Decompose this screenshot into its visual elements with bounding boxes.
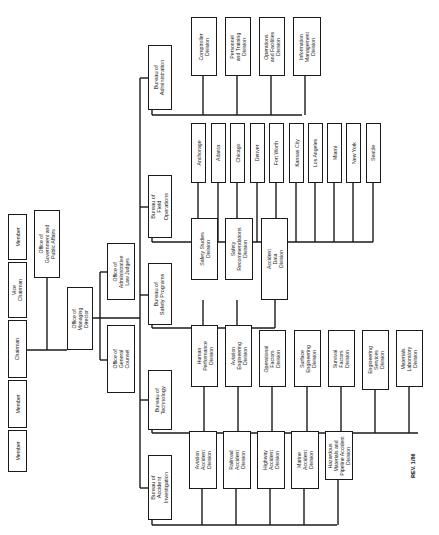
- chairman-box: Chairman: [8, 320, 27, 378]
- technology-division-box: Human Performance Division: [191, 325, 218, 387]
- connector-lines: [0, 0, 439, 535]
- field-office-box: Anchorage: [191, 123, 206, 183]
- safety-division-box: Accident Data Division: [261, 218, 288, 300]
- division-label: Fort Worth: [274, 141, 280, 165]
- admin-division-box: Comptroller Division: [191, 17, 217, 76]
- accident-division-box: Marine Accident Division: [291, 431, 319, 489]
- vice-chairman-box: Vice Chairman: [8, 262, 27, 318]
- division-label: Denver: [255, 145, 261, 162]
- managing-director-box: Office of Managing Director: [67, 287, 93, 350]
- division-label: Hazardous Materials and Pipeline Acciden…: [327, 436, 351, 476]
- division-label: New York: [351, 142, 357, 164]
- admin-division-box: Operations and Facilities Division: [259, 17, 285, 76]
- field-office-box: New York: [346, 123, 361, 183]
- accident-division-box: Highway Accident Division: [257, 431, 285, 489]
- field-office-box: Denver: [250, 123, 265, 183]
- division-label: Personnel and Training Division: [229, 32, 247, 61]
- bureau-label: Bureau of Accident Investigation: [150, 472, 169, 503]
- division-label: Accident Data Division: [266, 249, 284, 269]
- division-label: Materials Laboratory Division: [401, 346, 419, 371]
- bureau-label: Bureau of Safety Programs: [154, 273, 167, 315]
- division-label: Information Management Division: [298, 31, 316, 61]
- division-label: Safety Studies Division: [199, 232, 211, 265]
- field-office-box: Miami: [327, 123, 342, 183]
- division-label: Anchorage: [196, 140, 202, 165]
- technology-division-box: Surface Engineering Division: [294, 330, 321, 387]
- division-label: Marine Accident Division: [296, 450, 314, 470]
- board-member-label: Member: [15, 441, 21, 460]
- division-label: Chicago: [235, 143, 241, 162]
- technology-division-box: Survival Factors Division: [328, 330, 355, 387]
- bureau-technology-box: Bureau of Technology: [148, 370, 172, 430]
- bureau-label: Bureau of Technology: [154, 386, 167, 414]
- managing-director-label: Office of Managing Director: [71, 307, 89, 330]
- division-label: Kansas City: [294, 139, 300, 167]
- division-label: Comptroller Division: [198, 33, 210, 60]
- board-member-label: Member: [15, 227, 21, 246]
- board-member-box: Member: [8, 214, 27, 260]
- division-label: Engineering Services Division: [367, 346, 385, 374]
- division-label: Survival Factors Division: [332, 349, 350, 367]
- admin-division-box: Personnel and Training Division: [225, 17, 251, 76]
- accident-division-box: Aviation Accident Division: [189, 431, 217, 489]
- field-office-box: Atlanta: [211, 123, 226, 183]
- field-office-box: Kansas City: [289, 123, 304, 183]
- board-member-label: Member: [15, 394, 21, 413]
- division-label: Highway Accident Division: [262, 450, 280, 470]
- division-label: Railroad Accident Division: [228, 450, 246, 470]
- division-label: Aviation Accident Division: [194, 450, 212, 470]
- division-label: Los Angeles: [313, 139, 319, 167]
- bureau-label: Bureau of Field Operations: [150, 193, 169, 220]
- technology-division-box: Aviation Engineering Division: [225, 325, 252, 387]
- safety-division-box: Safety Studies Division: [191, 218, 218, 280]
- field-office-box: Chicago: [230, 123, 245, 183]
- bureau-accident-investigation-box: Bureau of Accident Investigation: [148, 455, 172, 520]
- division-label: Operations and Facilities Division: [263, 31, 281, 61]
- division-label: Atlanta: [216, 145, 222, 161]
- field-office-box: Fort Worth: [269, 123, 284, 183]
- bureau-label: Bureau of Administration: [154, 60, 167, 95]
- division-label: Human Performance Division: [196, 341, 214, 371]
- division-label: Miami: [332, 146, 338, 160]
- bureau-administration-box: Bureau of Administration: [148, 45, 172, 110]
- division-label: Operational Factors Division: [264, 345, 282, 372]
- admin-law-judges-label: Office of Administrative Law Judges: [112, 255, 130, 288]
- technology-division-box: Engineering Services Division: [362, 330, 389, 390]
- division-label: Surface Engineering Division: [299, 345, 317, 373]
- admin-law-judges-box: Office of Administrative Law Judges: [107, 243, 135, 300]
- technology-division-box: Materials Laboratory Division: [396, 330, 423, 387]
- bureau-field-operations-box: Bureau of Field Operations: [148, 175, 172, 238]
- bureau-safety-programs-box: Bureau of Safety Programs: [148, 263, 172, 325]
- revision-label: REV. 1/86: [410, 453, 416, 478]
- field-office-box: Seattle: [366, 123, 381, 183]
- general-counsel-label: Office of General Counsel: [112, 349, 130, 368]
- gov-affairs-label: Office of Government and Public Affairs: [38, 225, 56, 264]
- chairman-label: Chairman: [15, 338, 21, 361]
- board-member-box: Member: [8, 430, 27, 472]
- field-office-box: Los Angeles: [308, 123, 323, 183]
- admin-division-box: Information Management Division: [293, 17, 321, 76]
- technology-division-box: Operational Factors Division: [259, 330, 286, 387]
- accident-division-box: Hazardous Materials and Pipeline Acciden…: [325, 431, 353, 480]
- accident-division-box: Railroad Accident Division: [223, 431, 251, 489]
- safety-division-box: Safety Recommendations Division: [225, 218, 253, 280]
- division-label: Safety Recommendations Division: [230, 227, 248, 270]
- general-counsel-box: Office of General Counsel: [107, 325, 135, 393]
- vice-chairman-label: Vice Chairman: [12, 279, 24, 302]
- gov-affairs-office-box: Office of Government and Public Affairs: [34, 210, 60, 278]
- division-label: Aviation Engineering Division: [230, 342, 248, 370]
- board-member-box: Member: [8, 380, 27, 428]
- division-label: Seattle: [371, 145, 377, 161]
